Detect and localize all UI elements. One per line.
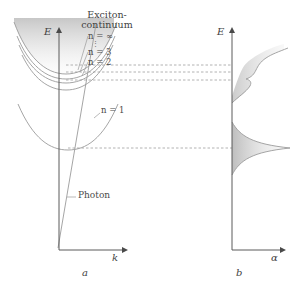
absorption-peak-n1-fill bbox=[232, 122, 290, 175]
label-n-1: n = 1 bbox=[101, 106, 124, 115]
exciton-diagram: Exciton- continuum n = ∞ ⋮ n = 3 n = 2 n… bbox=[0, 0, 296, 288]
exciton-continuum-title: Exciton- continuum bbox=[64, 10, 150, 31]
label-photon: Photon bbox=[78, 191, 110, 201]
panel-a-y-axis-label: E bbox=[44, 27, 51, 38]
label-n-ellipsis: ⋮ bbox=[92, 43, 99, 46]
panel-b-label: b bbox=[236, 268, 242, 279]
panel-b-y-axis-label: E bbox=[217, 27, 224, 38]
panel-a-label: a bbox=[82, 268, 88, 279]
label-n-2: n = 2 bbox=[88, 58, 111, 67]
title-line-2: continuum bbox=[64, 20, 150, 30]
panel-b-x-axis-label: α bbox=[271, 253, 278, 264]
label-n-3: n = 3 bbox=[88, 48, 111, 57]
panel-a-x-axis-label: k bbox=[112, 253, 118, 264]
absorption-spectrum bbox=[232, 44, 290, 175]
n1-leader-line bbox=[94, 113, 100, 118]
energy-level-connectors bbox=[66, 65, 232, 148]
diagram-canvas bbox=[0, 0, 296, 288]
